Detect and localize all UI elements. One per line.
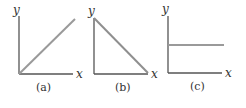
x-axis-label: x (76, 67, 83, 81)
decreasing-line (94, 18, 148, 73)
y-axis-label: y (12, 3, 20, 17)
panel-c: y x (c) (161, 2, 232, 93)
caption-a: (a) (36, 81, 51, 94)
caption-b: (b) (115, 81, 131, 94)
x-axis-label: x (225, 66, 232, 80)
graph-diagram: y x (a) y x (b) y x (c) (0, 0, 246, 108)
increasing-line (19, 19, 75, 74)
y-axis-label: y (87, 4, 95, 18)
y-axis-label: y (161, 2, 169, 16)
x-axis-label: x (151, 67, 158, 81)
panel-a: y x (a) (12, 3, 83, 94)
caption-c: (c) (190, 80, 205, 93)
panel-b: y x (b) (87, 4, 158, 94)
